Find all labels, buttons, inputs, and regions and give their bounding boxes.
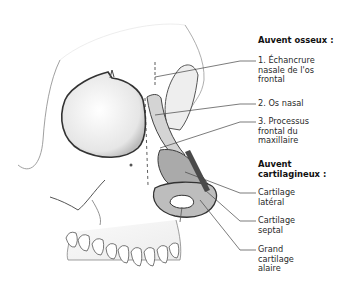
label-septal-cartilage: Cartilage septal xyxy=(258,216,295,235)
frontal-process-maxilla xyxy=(165,65,198,130)
label-nasal-bone: 2. Os nasal xyxy=(258,99,304,109)
heading-cartilaginous-vault: Auvent cartilagineux : xyxy=(258,160,326,179)
label-lateral-cartilage: Cartilage latéral xyxy=(258,188,295,207)
label-alar-cartilage: Grand cartilage alaire xyxy=(258,245,294,274)
label-frontal-notch: 1. Échancrure nasale de l'os frontal xyxy=(258,56,315,85)
label-frontal-process: 3. Processus frontal du maxillaire xyxy=(258,117,309,146)
orbit xyxy=(62,72,146,157)
heading-bony-vault: Auvent osseux : xyxy=(258,36,334,46)
